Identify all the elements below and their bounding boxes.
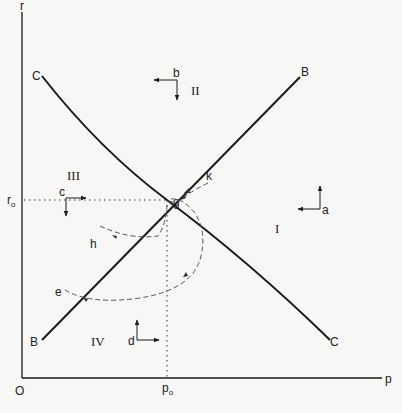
r0-label: ro [7, 193, 16, 209]
curve-b-end-label: B [301, 65, 309, 79]
region-iv-numeral: IV [91, 334, 105, 349]
curve-c: C C [32, 69, 339, 349]
region-i-arrow-label: a [322, 203, 329, 217]
region-i: I a [275, 186, 329, 236]
region-iii-arrow-label: c [59, 185, 65, 199]
curve-b: B B [30, 65, 309, 349]
region-iv-arrow-label: d [128, 334, 135, 348]
path-h [100, 205, 167, 237]
p0-label: po [162, 381, 174, 397]
region-iv: IV d [91, 320, 159, 349]
curve-b-line [42, 77, 300, 340]
origin-label: O [15, 384, 24, 398]
region-ii: II b [154, 66, 200, 100]
region-iii: III c [59, 168, 86, 216]
adjustment-paths [65, 183, 208, 300]
path-h-label: h [90, 237, 97, 251]
path-e-mid-arrowhead [183, 272, 188, 277]
curve-c-end-label: C [330, 335, 339, 349]
path-e [65, 199, 203, 300]
reference-lines: ro po [7, 193, 174, 397]
path-e-label: e [55, 285, 62, 299]
curve-c-start-label: C [32, 69, 41, 83]
y-axis-label: r [20, 0, 24, 13]
path-k-label: k [206, 169, 213, 183]
region-iii-numeral: III [67, 168, 80, 183]
path-h-arrowhead [112, 235, 117, 239]
path-k-arrowhead [184, 188, 190, 193]
region-ii-arrow-label: b [173, 66, 180, 80]
curve-b-start-label: B [30, 335, 38, 349]
x-axis-label: p [385, 372, 392, 386]
region-ii-numeral: II [191, 83, 200, 98]
phase-diagram: r p O ro po C C B B g k h e [0, 0, 402, 413]
region-i-numeral: I [275, 221, 279, 236]
